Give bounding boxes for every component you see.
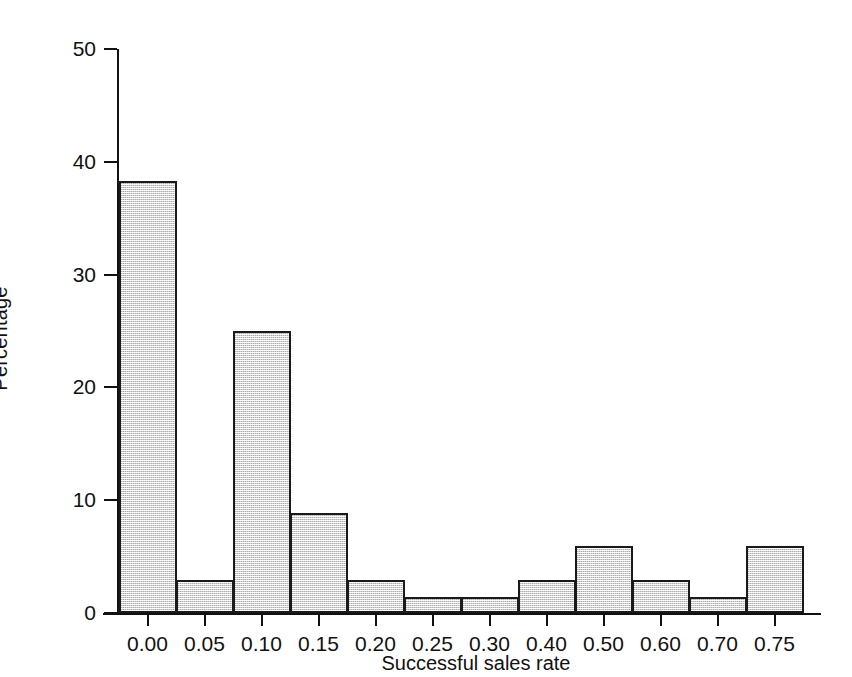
x-axis-line	[103, 613, 821, 615]
x-tick-0.75	[774, 615, 776, 626]
x-tick-0.30	[489, 615, 491, 626]
y-tick-label: 30	[44, 264, 96, 285]
y-tick-50	[104, 48, 117, 50]
bar-0.40	[518, 580, 576, 613]
x-tick-0.10	[261, 615, 263, 626]
x-tick-0.70	[717, 615, 719, 626]
plot-area	[119, 49, 803, 613]
y-tick-label: 50	[44, 38, 96, 59]
bar-0.15	[290, 513, 348, 613]
bar-0.30	[461, 597, 519, 613]
bar-0.25	[404, 597, 462, 613]
y-tick-label-text: 50	[50, 38, 96, 59]
bar-0.70	[689, 597, 747, 613]
bar-0.10	[233, 331, 291, 613]
x-tick-0.25	[432, 615, 434, 626]
x-tick-0.40	[546, 615, 548, 626]
y-tick-40	[104, 161, 117, 163]
x-tick-0.20	[375, 615, 377, 626]
bar-0.75	[746, 546, 804, 613]
y-tick-label: 40	[44, 151, 96, 172]
y-tick-label: 0	[44, 602, 96, 623]
y-tick-label-text: 0	[50, 602, 96, 623]
y-tick-30	[104, 274, 117, 276]
x-tick-0.60	[660, 615, 662, 626]
x-tick-0.05	[204, 615, 206, 626]
y-tick-20	[104, 386, 117, 388]
y-tick-label-text: 20	[50, 376, 96, 397]
y-axis-title: Percentage	[0, 0, 60, 677]
x-tick-0.50	[603, 615, 605, 626]
y-tick-label: 10	[44, 489, 96, 510]
y-tick-label: 20	[44, 376, 96, 397]
y-tick-label-text: 40	[50, 151, 96, 172]
x-axis-title: Successful sales rate	[0, 652, 852, 675]
y-tick-10	[104, 499, 117, 501]
histogram-figure: Percentage 01020304050 0.000.050.100.150…	[0, 0, 852, 677]
bar-0.00	[119, 181, 177, 613]
bar-0.05	[176, 580, 234, 613]
bar-0.50	[575, 546, 633, 613]
bar-0.20	[347, 580, 405, 613]
bar-0.60	[632, 580, 690, 613]
y-tick-label-text: 10	[50, 489, 96, 510]
y-tick-label-text: 30	[50, 264, 96, 285]
x-tick-0.15	[318, 615, 320, 626]
x-tick-0.00	[147, 615, 149, 626]
